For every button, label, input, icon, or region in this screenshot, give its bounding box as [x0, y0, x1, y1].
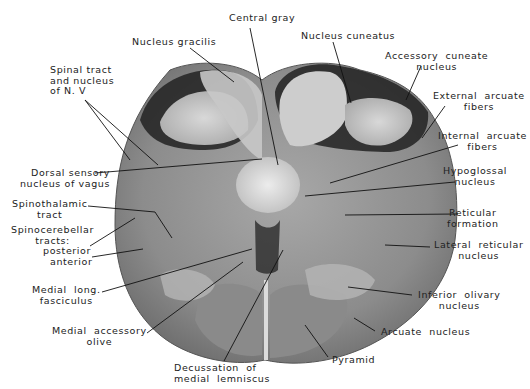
label-spinal-tract-n5: Spinal tract and nucleus of N. V: [50, 65, 114, 97]
label-central-gray: Central gray: [229, 13, 295, 24]
label-accessory-cuneate-nucleus: Accessory cuneate nucleus: [385, 51, 488, 72]
label-dorsal-sensory-nucleus-vagus: Dorsal sensory nucleus of vagus: [20, 168, 110, 189]
label-hypoglossal-nucleus: Hypoglossal nucleus: [443, 166, 507, 187]
label-inferior-olivary-nucleus: Inferior olivary nucleus: [418, 290, 501, 311]
label-nucleus-gracilis: Nucleus gracilis: [132, 37, 216, 48]
label-pyramid: Pyramid: [332, 355, 375, 366]
label-arcuate-nucleus: Arcuate nucleus: [381, 327, 470, 338]
label-spinocerebellar-posterior: posterior: [43, 246, 91, 257]
label-medial-long-fasciculus: Medial long. fasciculus: [32, 285, 101, 306]
central-gray-region: [236, 157, 300, 213]
label-spinothalamic-tract: Spinothalamic tract: [12, 199, 87, 220]
label-spinocerebellar-tracts: Spinocerebellar tracts:: [11, 225, 94, 246]
label-external-arcuate-fibers: External arcuate fibers: [433, 91, 525, 112]
label-decussation-medial-lemniscus: Decussation of medial lemniscus: [174, 363, 270, 384]
label-nucleus-cuneatus: Nucleus cuneatus: [301, 31, 395, 42]
label-lateral-reticular-nucleus: Lateral reticular nucleus: [434, 240, 523, 261]
medulla-section-figure: Central gray Nucleus gracilis Nucleus cu…: [0, 0, 530, 389]
label-spinocerebellar-anterior: anterior: [50, 257, 92, 268]
label-medial-accessory-olive: Medial accessory olive: [52, 326, 147, 347]
label-reticular-formation: Reticular formation: [447, 208, 499, 229]
label-internal-arcuate-fibers: Internal arcuate fibers: [438, 131, 527, 152]
